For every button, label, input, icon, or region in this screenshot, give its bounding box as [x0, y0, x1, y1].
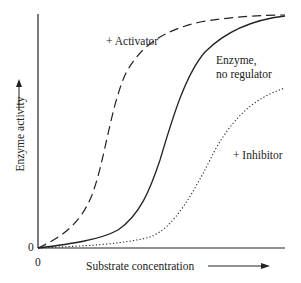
x-origin-label: 0: [35, 256, 41, 269]
activator-curve: [38, 15, 285, 248]
x-axis-label: Substrate concentration: [86, 260, 194, 273]
y-axis-label: Enzyme activity: [14, 79, 26, 189]
no-regulator-label-line2: no regulator: [216, 68, 272, 81]
x-axis-arrow-icon: [261, 263, 270, 269]
activator-label: + Activator: [106, 35, 158, 48]
no-regulator-curve: [38, 16, 285, 248]
inhibitor-label: + Inhibitor: [233, 149, 283, 162]
inhibitor-curve: [38, 88, 285, 248]
no-regulator-label-line1: Enzyme,: [216, 54, 257, 67]
y-origin-label: 0: [28, 241, 34, 254]
